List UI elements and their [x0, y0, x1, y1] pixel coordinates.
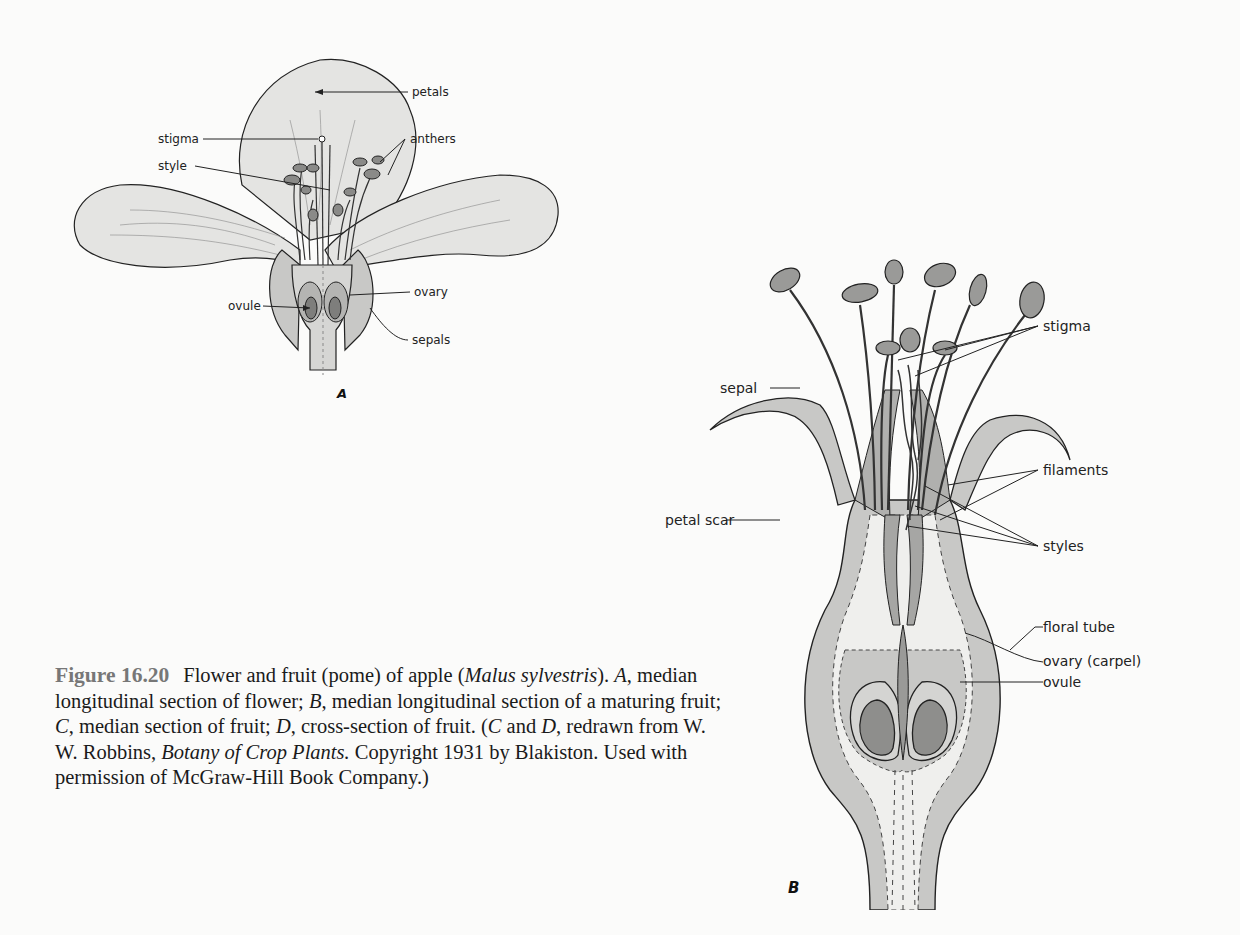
label-floral-tube: floral tube [1043, 619, 1115, 635]
label-anthers: anthers [410, 132, 456, 146]
label-ovary-a: ovary [414, 285, 448, 299]
label-ovule-b: ovule [1043, 674, 1081, 690]
label-ovule-a: ovule [228, 299, 261, 313]
panel-letter-b: B [788, 879, 799, 897]
figure-number: Figure 16.20 [55, 663, 169, 687]
label-filaments: filaments [1043, 462, 1108, 478]
label-sepal: sepal [720, 380, 757, 396]
label-petals: petals [412, 85, 449, 99]
fruit-section-illustration: stigma sepal filaments petal scar styles… [660, 230, 1240, 910]
figure-panel-a: petals stigma anthers style ovary ovule … [60, 50, 560, 410]
label-style: style [158, 159, 187, 173]
label-styles: styles [1043, 538, 1084, 554]
figure-caption: Figure 16.20Flower and fruit (pome) of a… [55, 663, 725, 791]
label-sepals: sepals [412, 333, 450, 347]
label-ovary-carpel: ovary (carpel) [1043, 653, 1141, 669]
panel-letter-a: A [336, 386, 347, 401]
label-stigma-a: stigma [158, 132, 199, 146]
figure-panel-b: stigma sepal filaments petal scar styles… [660, 230, 1240, 910]
label-petal-scar: petal scar [665, 512, 734, 528]
flower-section-illustration: petals stigma anthers style ovary ovule … [60, 50, 560, 410]
label-stigma-b: stigma [1043, 318, 1091, 334]
